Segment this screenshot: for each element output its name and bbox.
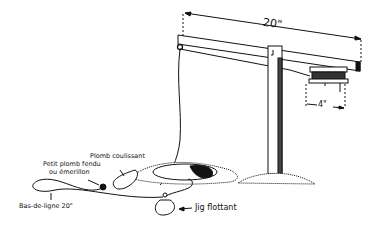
- spool-width-label: 4": [318, 101, 327, 109]
- floating-jig: [155, 193, 174, 215]
- split-shot-label-line1: Petit plomb fendu: [43, 161, 101, 168]
- split-shot-label-line2: ou émerillon: [49, 169, 90, 176]
- line-spool: [309, 67, 348, 92]
- ice-hole: [130, 162, 238, 184]
- sliding-sinker: [113, 170, 137, 189]
- split-shot: [100, 184, 106, 190]
- sliding-sinker-label: Plomb coulissant: [90, 153, 145, 160]
- leader-label: Bas-de-ligne 20": [19, 203, 73, 210]
- floating-jig-label: Jig flottant: [195, 204, 237, 212]
- post-base-mound: [238, 173, 315, 184]
- arm-length-label: 20": [262, 17, 282, 31]
- leader-line: [33, 179, 163, 197]
- tip-up-illustration: 20" 4" Plomb coulissant Petit plomb fend…: [0, 0, 381, 227]
- tip-up-post: [268, 46, 282, 174]
- line-drawing: [0, 0, 381, 227]
